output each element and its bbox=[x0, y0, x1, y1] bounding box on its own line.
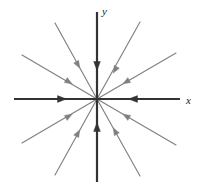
arrowhead-positive-y-axis bbox=[94, 62, 101, 71]
trajectory-ray-q1-steep bbox=[97, 22, 140, 99]
arrowhead-ray-q1-shallow bbox=[123, 78, 131, 84]
arrowhead-ray-q3-shallow bbox=[64, 114, 72, 120]
trajectory-negative-y-axis bbox=[94, 123, 101, 132]
arrowhead-ray-q4-steep bbox=[113, 128, 119, 136]
arrowhead-ray-q4-shallow bbox=[123, 114, 131, 120]
trajectory-ray-q4-steep bbox=[97, 99, 140, 176]
arrowhead-ray-q3-steep bbox=[74, 130, 80, 138]
arrowhead-positive-x-axis bbox=[129, 96, 138, 103]
trajectory-ray-q3-shallow bbox=[22, 99, 97, 143]
arrowhead-ray-q2-shallow bbox=[64, 78, 72, 84]
trajectory-positive-y-axis bbox=[94, 62, 101, 71]
y-axis-label: y bbox=[101, 5, 107, 17]
arrowhead-ray-q1-steep bbox=[113, 65, 119, 73]
trajectory-ray-q3-steep bbox=[55, 99, 97, 175]
arrowhead-ray-q2-steep bbox=[74, 60, 80, 68]
trajectory-ray-q2-steep bbox=[55, 23, 97, 99]
phase-portrait-figure: x y bbox=[0, 0, 197, 192]
trajectory-negative-x-axis bbox=[58, 96, 67, 103]
trajectory-ray-q4-shallow bbox=[97, 99, 176, 145]
arrowhead-negative-y-axis bbox=[94, 123, 101, 132]
trajectory-positive-x-axis bbox=[129, 96, 138, 103]
arrowhead-negative-x-axis bbox=[58, 96, 67, 103]
x-axis-label: x bbox=[185, 94, 191, 106]
trajectory-ray-q2-shallow bbox=[22, 55, 97, 99]
trajectory-ray-q1-shallow bbox=[97, 53, 176, 99]
phase-portrait-canvas: x y bbox=[0, 0, 197, 192]
axis-layer bbox=[14, 12, 180, 182]
